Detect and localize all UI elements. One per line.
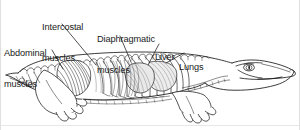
label-line-1: Intercostal (42, 22, 83, 32)
label-line-1: Lungs (179, 62, 204, 72)
alligator-anatomy-figure: Abdominal muscles Intercostal muscles Di… (0, 0, 300, 130)
label-line-2: muscles (42, 53, 83, 63)
label-line-1: Liver (155, 52, 174, 62)
label-diaphragmatic-muscles: Diaphragmatic muscles (97, 14, 155, 96)
label-line-2: muscles (97, 65, 155, 75)
label-line-1: Diaphragmatic (97, 34, 155, 44)
label-liver: Liver (155, 32, 174, 83)
label-intercostal-muscles: Intercostal muscles (42, 2, 83, 84)
label-abdominal-muscles: Abdominal muscles (4, 28, 47, 110)
label-line-2: muscles (4, 79, 47, 89)
label-line-1: Abdominal (4, 48, 47, 58)
label-lungs: Lungs (179, 42, 204, 93)
